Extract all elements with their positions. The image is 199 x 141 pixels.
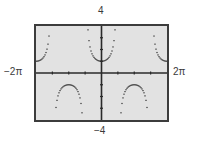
y-min-label: −4 — [94, 126, 105, 136]
plot-area — [36, 26, 167, 120]
calculator-screen — [34, 24, 169, 122]
x-max-label: 2π — [173, 67, 185, 77]
x-min-label: −2π — [4, 67, 22, 77]
y-max-label: 4 — [98, 6, 104, 16]
